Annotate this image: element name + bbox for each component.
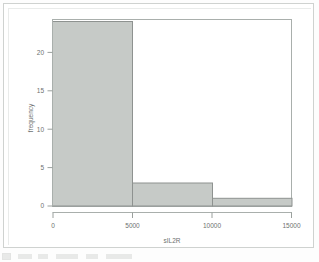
artifact-mark-3: [38, 254, 48, 259]
x-axis-ticks: [53, 213, 292, 219]
bar-bin-2: [133, 183, 213, 206]
y-tick-label-5: 5: [40, 164, 44, 171]
y-tick-label-0: 0: [40, 202, 44, 209]
artifact-mark-4: [56, 254, 78, 259]
histogram-chart: 0 5 10 15 20 0 5000 10000 15000 sIL2R fr…: [0, 0, 319, 262]
artifact-mark-5: [86, 254, 98, 259]
bar-bin-1: [53, 22, 133, 207]
y-axis-title: frequency: [27, 103, 35, 132]
bar-bin-3: [213, 198, 293, 206]
scan-edge-artifact: [2, 252, 152, 261]
x-tick-label-0: 0: [51, 222, 55, 229]
artifact-mark-6: [106, 254, 132, 259]
artifact-mark-2: [18, 254, 32, 259]
bars-group: [53, 22, 293, 207]
scanned-page: 0 5 10 15 20 0 5000 10000 15000 sIL2R fr…: [0, 0, 319, 262]
x-tick-label-15000: 15000: [282, 222, 300, 229]
x-tick-label-10000: 10000: [203, 222, 221, 229]
y-tick-label-10: 10: [37, 126, 45, 133]
artifact-mark-1: [2, 253, 11, 260]
x-tick-label-5000: 5000: [125, 222, 140, 229]
x-axis-title: sIL2R: [164, 237, 181, 244]
y-tick-label-20: 20: [37, 49, 45, 56]
y-axis-ticks: [48, 52, 53, 206]
y-tick-label-15: 15: [37, 87, 45, 94]
